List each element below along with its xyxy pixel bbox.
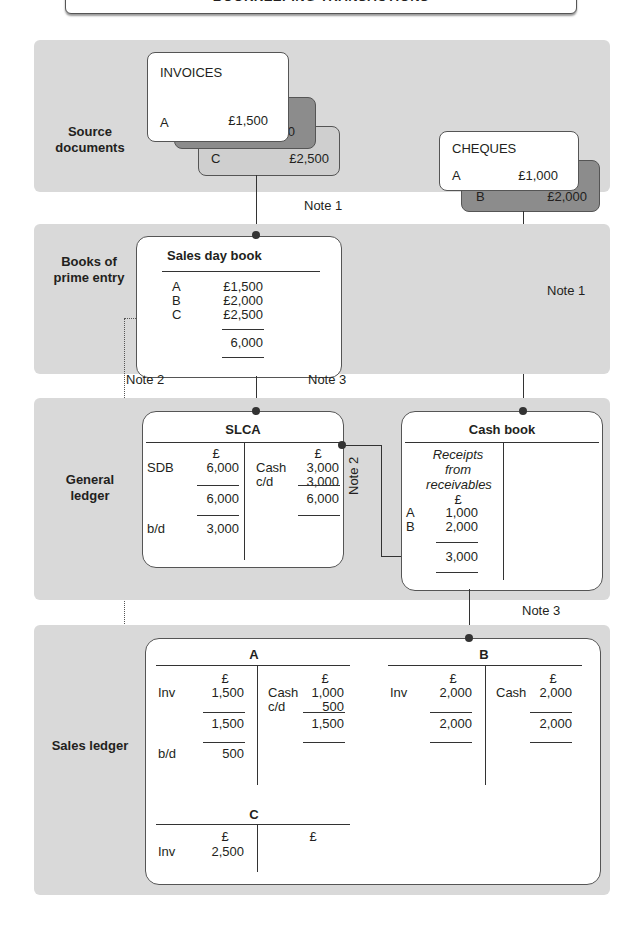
slca-bd-label: b/d xyxy=(147,521,165,536)
slca-credit-total: 6,000 xyxy=(293,491,339,506)
cash-book-heading-3: receivables xyxy=(424,477,494,492)
cash-book-total: 3,000 xyxy=(430,549,478,564)
sdb-total: 6,000 xyxy=(217,335,263,350)
slca-debit-rule-bottom xyxy=(197,515,239,516)
sales-a-credit-currency: £ xyxy=(302,671,348,686)
sales-b-divider xyxy=(485,665,486,785)
note-2-label: Note 2 xyxy=(126,372,164,387)
invoice-a-id: A xyxy=(160,115,169,130)
band-label-source: Source documents xyxy=(40,124,140,156)
sales-a-debit-label: Inv xyxy=(158,685,175,700)
sales-a-debit-rule-bottom xyxy=(203,742,245,743)
slca-credit-rule-bottom xyxy=(298,515,340,516)
sales-a-bd-amount: 500 xyxy=(198,746,244,761)
sales-a-debit-total: 1,500 xyxy=(198,716,244,731)
sales-a-divider xyxy=(257,665,258,785)
sales-b-debit-total: 2,000 xyxy=(426,716,472,731)
connector-dot-sales-b-top xyxy=(465,634,473,642)
cheque-a-id: A xyxy=(452,168,461,183)
cash-book-rule-top xyxy=(436,542,478,543)
sales-b-credit-rule-top xyxy=(530,712,572,713)
slca-credit-label-1: Cash xyxy=(256,460,286,475)
sales-c-debit-amount: 2,500 xyxy=(198,844,244,859)
cash-book-header-rule xyxy=(405,442,599,443)
slca-account: SLCA £ SDB 6,000 6,000 b/d 3,000 £ Cash … xyxy=(142,411,344,568)
connector-dot-slca-top xyxy=(252,407,260,415)
cash-book-divider xyxy=(503,442,504,580)
sales-a-bd-label: b/d xyxy=(158,746,176,761)
cheque-b-amount: £2,000 xyxy=(547,189,587,204)
cash-book-row-a-id: A xyxy=(406,505,415,520)
sdb-row-c-amount: £2,500 xyxy=(217,307,263,322)
band-label-general: General ledger xyxy=(50,472,130,504)
cash-book-heading-1: Receipts xyxy=(428,447,488,462)
sales-b-debit-label: Inv xyxy=(390,685,407,700)
sales-b-credit-total: 2,000 xyxy=(526,716,572,731)
sales-a-debit-amount: 1,500 xyxy=(198,685,244,700)
sdb-row-a-amount: £1,500 xyxy=(217,279,263,294)
slca-debit-amount: 6,000 xyxy=(193,460,239,475)
note-1-right: Note 1 xyxy=(547,283,585,298)
sales-a-header-rule xyxy=(156,665,350,666)
sales-b-debit-rule-top xyxy=(430,712,472,713)
slca-debit-rule-top xyxy=(197,485,239,486)
cheque-a-amount: £1,000 xyxy=(518,168,558,183)
sales-day-book: Sales day book A £1,500 B £2,000 C £2,50… xyxy=(136,236,342,378)
slca-credit-amount-1: 3,000 xyxy=(293,460,339,475)
connector-slca-to-cash-v xyxy=(381,445,382,556)
slca-credit-currency: £ xyxy=(295,446,341,461)
slca-divider xyxy=(244,442,245,560)
sales-c-divider xyxy=(257,824,258,872)
sdb-row-b-amount: £2,000 xyxy=(217,293,263,308)
cash-book-row-b-id: B xyxy=(406,519,415,534)
note-3-label-bottom: Note 3 xyxy=(522,603,560,618)
slca-debit-total: 6,000 xyxy=(193,491,239,506)
slca-credit-amount-2: 3,000 xyxy=(293,474,339,489)
sales-c-header-rule xyxy=(156,824,350,825)
sales-a-credit-amount-1: 1,000 xyxy=(298,685,344,700)
sales-c-debit-currency: £ xyxy=(202,829,248,844)
band-label-prime: Books of prime entry xyxy=(44,254,134,286)
sales-b-credit-amount: 2,000 xyxy=(526,685,572,700)
invoice-card-a: INVOICES A £1,500 xyxy=(147,52,289,142)
sales-ledger-panel: A £ Inv 1,500 1,500 b/d 500 £ Cash 1,000… xyxy=(145,638,601,885)
note-3-label-top: Note 3 xyxy=(308,372,346,387)
sdb-total-rule-top xyxy=(222,329,264,330)
invoice-a-amount: £1,500 xyxy=(228,113,268,128)
sales-b-credit-currency: £ xyxy=(530,671,576,686)
sdb-title: Sales day book xyxy=(167,248,262,263)
cash-book-heading-2: from xyxy=(428,462,488,477)
slca-title: SLCA xyxy=(143,422,343,437)
cash-book-title: Cash book xyxy=(402,422,602,437)
sales-a-credit-label-1: Cash xyxy=(268,685,298,700)
slca-bd-amount: 3,000 xyxy=(193,521,239,536)
connector-slca-to-cash-h1 xyxy=(342,445,381,446)
cash-book-rule-bottom xyxy=(436,572,478,573)
cash-book-account: Cash book Receipts from receivables £ A … xyxy=(401,411,603,591)
sdb-row-c-id: C xyxy=(172,307,181,322)
slca-credit-rule-top xyxy=(298,485,340,486)
slca-debit-currency: £ xyxy=(193,446,239,461)
sales-a-credit-total: 1,500 xyxy=(298,716,344,731)
cash-book-row-a-amount: 1,000 xyxy=(430,505,478,520)
invoice-c-id: C xyxy=(211,151,220,166)
sdb-row-a-id: A xyxy=(172,279,181,294)
cheques-label: CHEQUES xyxy=(452,141,516,156)
cheque-b-id: B xyxy=(476,189,485,204)
sales-a-credit-rule-top xyxy=(303,712,345,713)
note-2-rotated: Note 2 xyxy=(346,457,361,495)
connector-note2-dotted-top xyxy=(124,318,136,319)
invoices-label: INVOICES xyxy=(160,65,222,80)
sales-a-debit-rule-top xyxy=(203,712,245,713)
sdb-header-rule xyxy=(162,271,320,272)
sdb-total-rule-bottom xyxy=(222,357,264,358)
sales-c-credit-currency: £ xyxy=(290,829,336,844)
sales-c-debit-label: Inv xyxy=(158,844,175,859)
sales-b-credit-rule-bottom xyxy=(530,742,572,743)
slca-header-rule xyxy=(146,442,340,443)
sales-b-debit-currency: £ xyxy=(430,671,476,686)
sales-b-title: B xyxy=(386,647,582,662)
note-1-left: Note 1 xyxy=(304,198,342,213)
sdb-row-b-id: B xyxy=(172,293,181,308)
invoice-c-amount: £2,500 xyxy=(289,151,329,166)
